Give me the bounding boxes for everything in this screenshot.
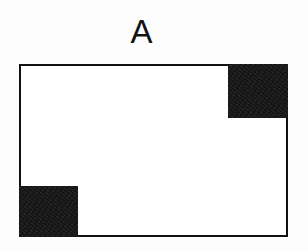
corner-square-bottom-left (19, 186, 78, 237)
figure-label: A (0, 14, 283, 50)
figure-canvas: A (0, 0, 308, 251)
corner-square-top-right (228, 64, 288, 118)
